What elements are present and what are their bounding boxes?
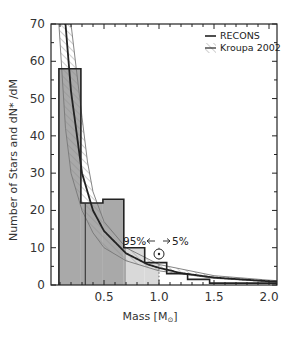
x-tick-label: 2.0 [259,290,278,304]
plot-area [59,24,280,285]
x-tick-label: 1.5 [204,290,223,304]
legend-label-recons: RECONS [220,30,260,41]
y-tick-label: 50 [30,92,45,106]
annotation-95pct: 95% [123,235,146,247]
legend: RECONS Kroupa 2002 [205,30,281,53]
chart-figure: 0.51.01.52.0010203040506070 RECONS Kroup… [0,0,291,339]
annotation-5pct: 5% [172,235,189,247]
y-tick-label: 70 [30,17,45,31]
x-tick-label: 0.5 [94,290,113,304]
y-tick-label: 40 [30,129,45,143]
y-axis-title: Number of Stars and dN* /dM [7,79,20,241]
legend-label-kroupa: Kroupa 2002 [220,42,281,53]
y-tick-label: 10 [30,241,45,255]
y-tick-label: 20 [30,203,45,217]
y-tick-label: 30 [30,166,45,180]
y-tick-label: 0 [37,278,45,292]
x-axis-title: Mass [M⊙] [122,310,177,324]
y-tick-label: 60 [30,54,45,68]
x-tick-label: 1.0 [149,290,168,304]
